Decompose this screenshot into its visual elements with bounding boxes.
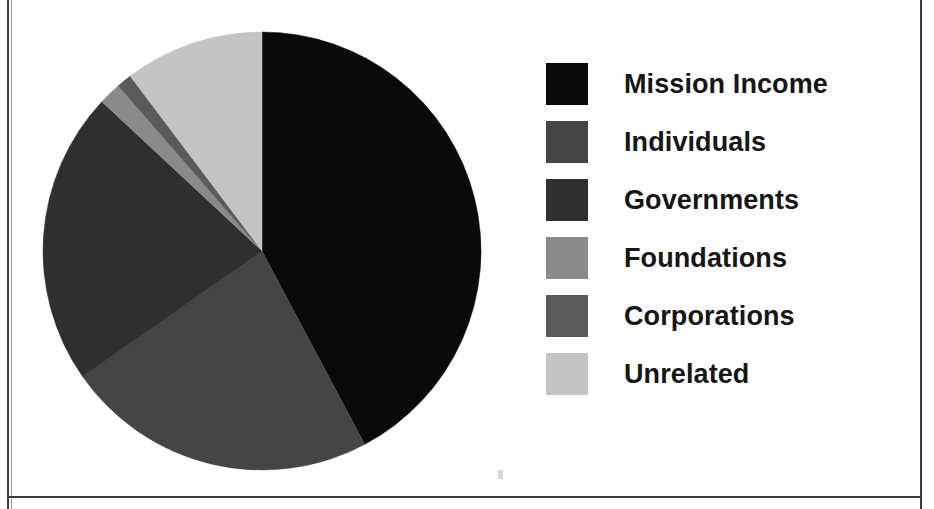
legend-swatch-icon — [546, 63, 588, 105]
scan-artifact — [498, 470, 503, 479]
legend-item-label: Governments — [624, 185, 799, 216]
legend-item[interactable]: Governments — [546, 171, 896, 229]
pie-chart-graphic — [42, 31, 482, 471]
page-canvas: Mission IncomeIndividualsGovernmentsFoun… — [0, 0, 934, 509]
legend-item[interactable]: Individuals — [546, 113, 896, 171]
legend-swatch-icon — [546, 353, 588, 395]
legend-item[interactable]: Foundations — [546, 229, 896, 287]
legend-item[interactable]: Corporations — [546, 287, 896, 345]
legend-item-label: Foundations — [624, 243, 787, 274]
legend-swatch-icon — [546, 179, 588, 221]
legend-item-label: Mission Income — [624, 69, 828, 100]
legend-item[interactable]: Unrelated — [546, 345, 896, 403]
legend-item-label: Individuals — [624, 127, 766, 158]
legend-item[interactable]: Mission Income — [546, 55, 896, 113]
pie-slice-group — [43, 32, 481, 470]
legend-swatch-icon — [546, 121, 588, 163]
pie-chart-figure: Mission IncomeIndividualsGovernmentsFoun… — [0, 0, 934, 509]
legend-swatch-icon — [546, 237, 588, 279]
pie-svg — [42, 31, 482, 471]
legend-item-label: Corporations — [624, 301, 795, 332]
legend-swatch-icon — [546, 295, 588, 337]
chart-legend: Mission IncomeIndividualsGovernmentsFoun… — [546, 55, 896, 403]
legend-item-label: Unrelated — [624, 359, 749, 390]
